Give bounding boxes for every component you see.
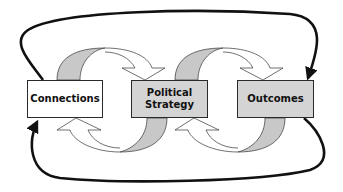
node-political-strategy-label-line2: Strategy xyxy=(145,99,194,111)
node-outcomes: Outcomes xyxy=(237,80,314,118)
political-strategy-cycle-diagram: Connections Political Strategy Outcomes xyxy=(0,0,343,192)
band-strategy-to-connections-gray xyxy=(120,118,167,152)
arrow-strategy-to-connections xyxy=(57,118,120,152)
arrow-connections-to-strategy xyxy=(105,48,165,80)
node-connections: Connections xyxy=(27,80,103,118)
band-connections-to-strategy-gray xyxy=(57,48,105,80)
node-political-strategy: Political Strategy xyxy=(131,80,208,118)
arrow-strategy-to-outcomes xyxy=(223,48,283,80)
arrow-outcomes-to-strategy xyxy=(175,118,238,152)
band-strategy-to-outcomes-gray xyxy=(175,48,223,80)
node-connections-label: Connections xyxy=(30,93,99,105)
band-outcomes-to-strategy-gray xyxy=(238,118,285,152)
node-political-strategy-label-line1: Political xyxy=(147,87,192,99)
node-outcomes-label: Outcomes xyxy=(247,93,303,105)
